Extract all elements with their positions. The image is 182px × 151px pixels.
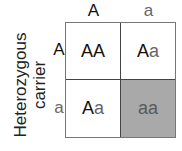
genotype-recessive: a — [94, 98, 104, 119]
genotype-dominant: A — [82, 98, 94, 119]
genotype-dominant: AA — [81, 41, 105, 62]
genotype-dominant: A — [137, 41, 149, 62]
genotype-recessive: a — [149, 41, 159, 62]
cell-Aa-top: Aa — [121, 23, 175, 80]
side-label: Heterozygous carrier — [4, 22, 56, 148]
column-header-a: a — [121, 1, 176, 21]
column-header-A: A — [66, 1, 121, 21]
cell-Aa-bottom: Aa — [66, 80, 121, 137]
row-header-A: A — [52, 40, 66, 60]
side-label-line-1: Heterozygous — [11, 33, 30, 138]
cell-aa-shaded: aa — [121, 80, 175, 137]
cell-AA: AA — [66, 23, 121, 80]
punnett-grid: AA Aa Aa aa — [65, 22, 176, 138]
row-header-a: a — [52, 98, 66, 118]
side-label-line-2: carrier — [30, 33, 49, 138]
genotype-recessive: aa — [138, 98, 158, 119]
